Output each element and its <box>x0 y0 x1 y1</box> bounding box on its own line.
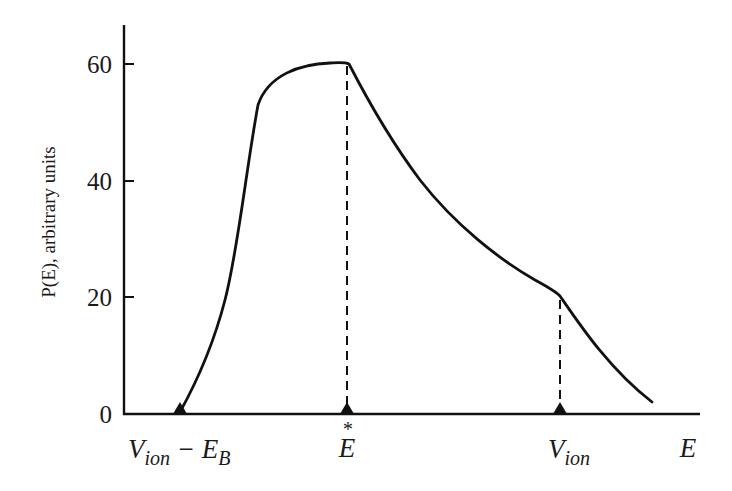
y-ticks <box>124 64 134 297</box>
x-label-e-star: E <box>338 433 356 463</box>
y-axis-title: P(E), arbitrary units <box>38 146 60 297</box>
y-tick-label-20: 20 <box>87 284 112 311</box>
distribution-curve <box>180 63 652 412</box>
marker-triangle-vion <box>553 402 567 414</box>
x-label-vion-minus-eb: Vion − EB <box>128 434 231 469</box>
x-axis-title: E <box>679 433 697 463</box>
chart-canvas: 60 40 20 0 P(E), arbitrary units Vion − … <box>0 0 732 491</box>
x-label-vion: Vion <box>548 434 590 469</box>
y-tick-label-60: 60 <box>87 51 112 78</box>
y-tick-label-40: 40 <box>87 168 112 195</box>
marker-triangle-peak <box>340 402 354 414</box>
y-tick-label-0: 0 <box>100 401 113 428</box>
